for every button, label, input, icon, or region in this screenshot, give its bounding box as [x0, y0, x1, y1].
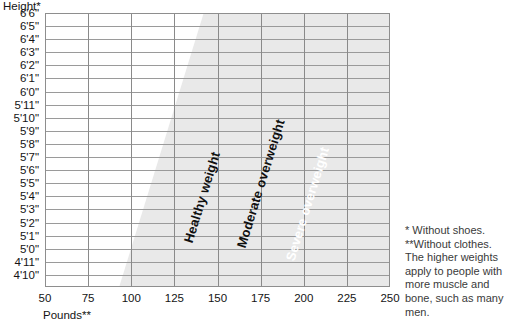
gridline-vertical-4: [218, 13, 219, 287]
footnote-line-5: more muscle and: [405, 278, 505, 292]
footnote-line-2: **Without clothes.: [405, 238, 505, 252]
x-axis-tick-250: 250: [380, 291, 399, 305]
y-axis-tick-13: 5'5": [20, 177, 39, 190]
gridline-vertical-3: [174, 13, 175, 287]
footnote-line-7: men.: [405, 306, 505, 320]
y-axis-tick-6: 6'0": [20, 86, 39, 99]
y-axis-tick-18: 5'0": [20, 243, 39, 256]
y-axis-tick-8: 5'10": [14, 112, 39, 125]
footnote-line-3: The higher weights: [405, 251, 505, 265]
footnote-line-4: apply to people with: [405, 265, 505, 279]
x-axis-tick-175: 175: [251, 291, 270, 305]
x-axis-tick-50: 50: [39, 291, 52, 305]
y-axis-tick-5: 6'1": [20, 72, 39, 85]
y-axis-tick-1: 6'5": [20, 20, 39, 33]
y-axis-tick-17: 5'1": [20, 230, 39, 243]
gridline-vertical-2: [131, 13, 132, 287]
x-axis-tick-125: 125: [165, 291, 184, 305]
gridline-vertical-6: [304, 13, 305, 287]
gridline-vertical-7: [347, 13, 348, 287]
y-axis-tick-20: 4'10": [14, 269, 39, 282]
footnotes-block: * Without shoes. **Without clothes. The …: [405, 224, 505, 319]
y-axis-tick-10: 5'8": [20, 138, 39, 151]
y-axis-tick-15: 5'3": [20, 203, 39, 216]
y-axis-tick-19: 4'11": [14, 256, 39, 269]
footnote-line-1: * Without shoes.: [405, 224, 505, 238]
y-axis-tick-0: 6'6": [20, 7, 39, 20]
x-axis-tick-225: 225: [337, 291, 356, 305]
gridline-vertical-1: [88, 13, 89, 287]
x-axis-tick-200: 200: [294, 291, 313, 305]
x-axis-title: Pounds**: [43, 309, 91, 322]
footnote-line-6: bone, such as many: [405, 292, 505, 306]
y-axis-tick-16: 5'2": [20, 217, 39, 230]
y-axis-tick-2: 6'4": [20, 33, 39, 46]
y-axis-tick-11: 5'7": [20, 151, 39, 164]
y-axis-tick-labels: 6'6"6'5"6'4"6'3"6'2"6'1"6'0"5'11"5'10"5'…: [0, 13, 42, 287]
x-axis-tick-100: 100: [122, 291, 141, 305]
x-axis-tick-75: 75: [82, 291, 95, 305]
y-axis-tick-14: 5'4": [20, 190, 39, 203]
y-axis-tick-9: 5'9": [20, 125, 39, 138]
band-healthy-weight: [119, 13, 390, 287]
x-axis-tick-150: 150: [208, 291, 227, 305]
gridline-vertical-5: [261, 13, 262, 287]
x-axis-tick-labels: 5075100125150175200225250: [0, 291, 440, 307]
bmi-chart-plot-area: Healthy weight Moderate overweight Sever…: [45, 13, 390, 287]
y-axis-tick-3: 6'3": [20, 46, 39, 59]
y-axis-tick-4: 6'2": [20, 59, 39, 72]
y-axis-tick-12: 5'6": [20, 164, 39, 177]
y-axis-tick-7: 5'11": [14, 99, 39, 112]
